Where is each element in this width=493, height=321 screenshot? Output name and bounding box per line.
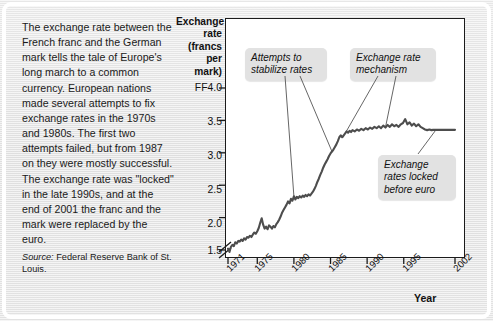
y-axis-ticks [219, 88, 225, 250]
x-axis-ticks [228, 258, 455, 264]
chart-svg-layer [0, 0, 493, 321]
figure-container: The exchange rate between the French fra… [0, 0, 493, 321]
data-line-franc-per-mark [228, 119, 455, 252]
annotation-leader-lines [285, 76, 436, 196]
